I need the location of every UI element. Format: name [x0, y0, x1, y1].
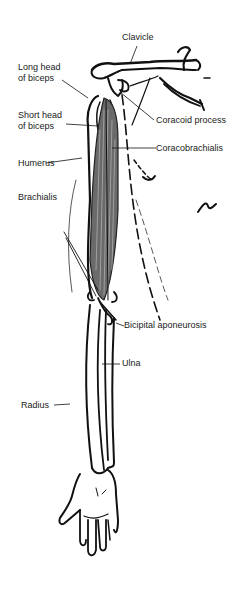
label-clavicle: Clavicle — [122, 32, 154, 43]
anatomy-diagram: Clavicle Long head of biceps Short head … — [0, 0, 234, 597]
label-ulna: Ulna — [122, 358, 141, 369]
label-humerus: Humerus — [18, 158, 55, 169]
label-coracobrachialis: Coracobrachialis — [156, 143, 223, 154]
label-brachialis: Brachialis — [18, 192, 57, 203]
label-short-head-biceps-1: Short head — [18, 110, 62, 121]
label-long-head-biceps-1: Long head — [18, 62, 61, 73]
arm-illustration — [0, 0, 234, 597]
label-short-head-biceps-2: of biceps — [18, 121, 54, 132]
label-coracoid-process: Coracoid process — [156, 115, 226, 126]
forearm-bones — [86, 305, 114, 470]
label-long-head-biceps-2: of biceps — [18, 73, 54, 84]
label-bicipital-aponeurosis: Bicipital aponeurosis — [124, 320, 207, 331]
hand-shape — [59, 470, 118, 555]
label-radius: Radius — [21, 400, 49, 411]
coracoid-shape — [108, 76, 158, 96]
